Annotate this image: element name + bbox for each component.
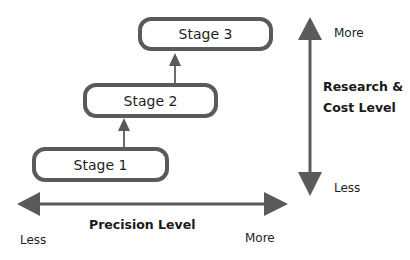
- horizontal-double-arrow: [17, 192, 288, 216]
- arrow-stage1-to-stage2: [118, 118, 130, 147]
- stage-3-label: Stage 3: [179, 26, 233, 42]
- stage-3-box: Stage 3: [138, 17, 273, 51]
- horizontal-axis-title: Precision Level: [89, 214, 195, 236]
- vertical-axis-top-label: More: [334, 26, 364, 40]
- stage-2-label: Stage 2: [124, 93, 178, 109]
- vertical-double-arrow: [298, 17, 322, 196]
- stages-diagram: Stage 3 Stage 2 Stage 1 More Research & …: [0, 0, 410, 260]
- vertical-axis-title-line2: Cost Level: [323, 97, 396, 119]
- horizontal-axis-left-label: Less: [20, 233, 46, 247]
- vertical-axis-title-line1: Research &: [323, 76, 403, 98]
- vertical-axis-bottom-label: Less: [334, 181, 360, 195]
- stage-2-box: Stage 2: [83, 83, 218, 118]
- arrow-stage2-to-stage3: [169, 53, 181, 83]
- stage-1-label: Stage 1: [74, 157, 128, 173]
- horizontal-axis-right-label: More: [245, 231, 275, 245]
- stage-1-box: Stage 1: [32, 147, 169, 182]
